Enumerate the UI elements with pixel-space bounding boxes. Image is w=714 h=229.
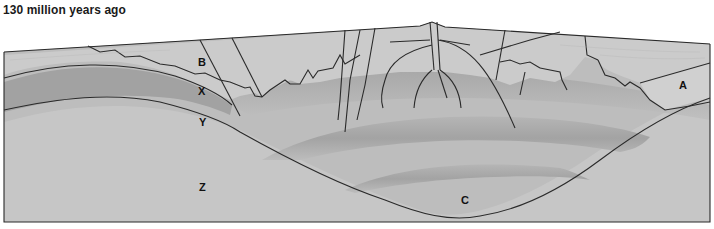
cross-section-diagram: B X Y Z C A — [0, 0, 714, 229]
label-b: B — [198, 56, 206, 68]
label-x: X — [198, 85, 206, 97]
label-c: C — [461, 194, 469, 206]
label-a: A — [679, 79, 687, 91]
label-z: Z — [199, 181, 206, 193]
label-y: Y — [199, 116, 207, 128]
